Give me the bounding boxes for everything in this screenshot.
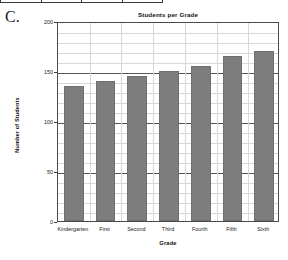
y-tick-mark	[54, 72, 57, 73]
x-axis-title: Grade	[57, 240, 279, 246]
x-tick-label: Second	[127, 226, 145, 232]
x-tick-label: Third	[162, 226, 174, 232]
x-tick-label: Fifth	[226, 226, 236, 232]
x-tick-label: First	[99, 226, 109, 232]
y-tick-mark	[54, 172, 57, 173]
x-tick-label: Sixth	[257, 226, 269, 232]
y-tick-label: 200	[27, 19, 53, 25]
y-tick-label: 50	[27, 169, 53, 175]
y-axis-title: Number of Students	[14, 70, 20, 180]
x-tick-label: Fourth	[192, 226, 208, 232]
x-tick-label: Kindergarten	[57, 226, 88, 232]
y-tick-label: 100	[27, 119, 53, 125]
y-tick-mark	[54, 122, 57, 123]
y-tick-mark	[54, 222, 57, 223]
bar-chart-figure: Students per Grade 050100150200 Number o…	[0, 0, 288, 260]
y-tick-mark	[54, 22, 57, 23]
y-tick-label: 150	[27, 69, 53, 75]
y-tick-label: 0	[27, 219, 53, 225]
y-axis: 050100150200	[0, 0, 288, 260]
